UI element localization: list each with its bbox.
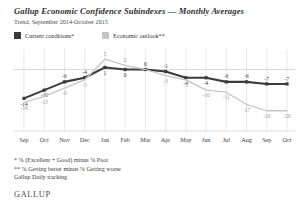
legend-swatch-current-conditions xyxy=(14,32,21,39)
x-axis-label-jul: Jul xyxy=(223,136,230,143)
data-point xyxy=(184,76,187,79)
data-label: 5 xyxy=(104,51,107,57)
footnote-3: Gallup Daily tracking xyxy=(14,173,121,182)
data-label: -5 xyxy=(184,82,189,88)
data-label: -1 xyxy=(163,63,168,69)
data-label: -20 xyxy=(283,113,290,119)
chart-page: Gallup Economic Confidence Subindexes — … xyxy=(0,0,307,211)
x-axis-label-oct: Oct xyxy=(283,136,292,143)
data-label: -4 xyxy=(82,69,87,75)
data-label: -20 xyxy=(263,113,270,119)
footnote-1: * % (Excellent + Good) minus % Poor xyxy=(14,156,121,165)
data-point xyxy=(265,82,268,85)
x-axis-labels: SepOctNovDecJanFebMarAprMayJunJulAugSepO… xyxy=(14,136,295,148)
data-label: -6 xyxy=(244,73,249,79)
legend-label-economic-outlook: Economic outlook** xyxy=(113,32,165,39)
data-label: -7 xyxy=(285,76,290,82)
x-axis-label-sep: Sep xyxy=(19,136,28,143)
data-point xyxy=(285,82,288,85)
data-label: -10 xyxy=(202,92,209,98)
chart-footnotes: * % (Excellent + Good) minus % Poor ** %… xyxy=(14,156,121,182)
x-axis-label-nov: Nov xyxy=(59,136,70,143)
data-label: -6 xyxy=(62,73,67,79)
data-point xyxy=(43,89,46,92)
data-point xyxy=(103,66,106,69)
gallup-logo: GALLUP xyxy=(14,190,51,199)
page-subtitle: Trend, September 2014-October 2015 xyxy=(14,18,108,25)
legend-label-current-conditions: Current conditions* xyxy=(25,32,74,39)
x-axis-label-feb: Feb xyxy=(121,136,130,143)
page-title: Gallup Economic Confidence Subindexes — … xyxy=(14,6,244,16)
data-point xyxy=(22,97,25,100)
x-axis-label-mar: Mar xyxy=(140,136,150,143)
footnote-2: ** % Getting better minus % Getting wors… xyxy=(14,165,121,174)
data-label: 0 xyxy=(144,61,147,67)
chart-svg: -14-10-6-4100-1-4-4-6-6-7-7-16-13-9-5520… xyxy=(14,49,295,135)
line-chart-plot: -14-10-6-4100-1-4-4-6-6-7-7-16-13-9-5520… xyxy=(14,49,295,135)
data-point xyxy=(225,80,228,83)
legend-item-current-conditions[interactable]: Current conditions* xyxy=(14,32,74,39)
data-point xyxy=(124,68,127,71)
data-label: 2 xyxy=(124,57,127,63)
data-point xyxy=(245,80,248,83)
legend-item-economic-outlook[interactable]: Economic outlook** xyxy=(102,32,165,39)
data-point xyxy=(63,80,66,83)
x-axis-label-aug: Aug xyxy=(241,136,252,143)
data-label: -3 xyxy=(163,78,168,84)
data-label: -11 xyxy=(223,94,230,100)
x-axis-label-sep: Sep xyxy=(262,136,271,143)
data-label: -13 xyxy=(41,99,48,105)
data-label: -17 xyxy=(243,107,250,113)
data-label: 1 xyxy=(104,70,107,76)
x-axis-label-apr: Apr xyxy=(161,136,171,143)
x-axis-label-jan: Jan xyxy=(101,136,109,143)
x-axis-label-may: May xyxy=(180,136,191,143)
x-axis-label-jun: Jun xyxy=(202,136,211,143)
data-point xyxy=(204,76,207,79)
data-label: -4 xyxy=(204,80,209,86)
data-label: -5 xyxy=(82,82,87,88)
legend-swatch-economic-outlook xyxy=(102,32,109,39)
data-point xyxy=(164,70,167,73)
data-label: -7 xyxy=(265,76,270,82)
data-label: 0 xyxy=(124,72,127,78)
series-line-economic-outlook xyxy=(24,59,287,111)
x-axis-label-oct: Oct xyxy=(40,136,49,143)
data-label: -6 xyxy=(224,73,229,79)
data-label: -9 xyxy=(62,90,67,96)
data-label: -16 xyxy=(20,105,27,111)
x-axis-label-dec: Dec xyxy=(80,136,90,143)
